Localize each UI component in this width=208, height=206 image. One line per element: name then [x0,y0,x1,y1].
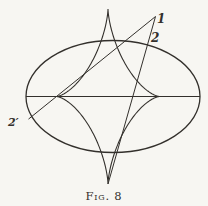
scanned-figure-page: 1 2 2′ Fig. 8 [0,0,208,206]
figure-caption: Fig. 8 [0,189,208,203]
tangent-line-2-prime [29,17,156,120]
point-label-1: 1 [157,13,165,25]
line-label-2: 2 [151,32,159,44]
figure-canvas [0,0,208,206]
line-label-2-prime: 2′ [8,117,19,129]
